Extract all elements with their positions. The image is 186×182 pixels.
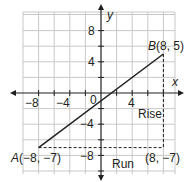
x-axis-left-arrow-icon	[10, 90, 16, 96]
x-axis-label: x	[171, 75, 179, 89]
y-tick-4: 4	[88, 55, 95, 69]
point-c-label: (8, −7)	[145, 151, 180, 165]
x-tick-4: 4	[128, 96, 135, 110]
origin-label: 0	[90, 93, 97, 107]
x-tick-neg8: −8	[25, 96, 39, 110]
point-b-label: B(8, 5)	[148, 39, 184, 53]
y-axis-down-arrow-icon	[98, 175, 104, 181]
y-axis-up-arrow-icon	[98, 4, 104, 10]
y-tick-8: 8	[88, 24, 95, 38]
run-label: Run	[112, 157, 134, 171]
x-axis-right-arrow-icon	[178, 90, 184, 96]
x-tick-neg4: −4	[56, 96, 70, 110]
y-tick-neg8: −8	[80, 149, 94, 163]
point-a-label: A(−8, −7)	[10, 151, 61, 165]
coordinate-plane: y x 8 4 −4 −8 −8 −4 4 0 B(8, 5) A(−8, −7…	[0, 0, 186, 182]
y-axis-label: y	[106, 8, 114, 22]
rise-label: Rise	[138, 107, 162, 121]
y-tick-neg4: −4	[80, 117, 94, 131]
